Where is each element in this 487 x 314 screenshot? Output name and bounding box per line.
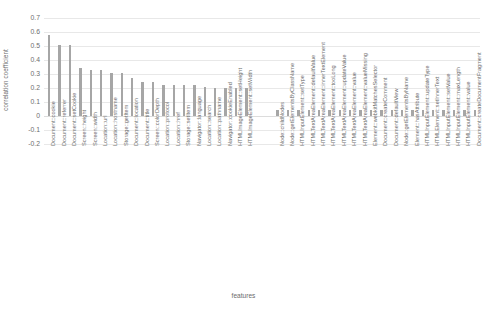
x-tick-label: Storage::getItem <box>124 105 130 146</box>
correlation-bar-chart: correlation coefficient 0.70.60.50.40.30… <box>0 0 487 314</box>
y-tick-label: 0.6 <box>16 29 40 36</box>
bar <box>100 70 102 116</box>
x-tick-label: HTMLInputElement::maxLength <box>456 67 462 146</box>
x-tick-label: Document::setCookie <box>72 93 78 146</box>
x-tick-label: Document::createComment <box>383 78 389 146</box>
y-tick-label: 0.5 <box>16 43 40 50</box>
y-tick-label: 0.7 <box>16 15 40 22</box>
x-tick-label: Document::createDocumentFragment <box>477 52 483 146</box>
x-tick-label: Screen::height <box>82 110 88 146</box>
y-tick-label: -0.1 <box>16 127 40 134</box>
x-axis-ticks: Document::cookieDocument::referrerDocume… <box>44 146 480 296</box>
x-tick-label: HTMLTextAreaElement::innerTextElement <box>321 42 327 146</box>
y-tick-label: 0.4 <box>16 57 40 64</box>
x-tick-label: Document::location <box>134 98 140 146</box>
x-tick-label: Element::webkitMatchesSelector <box>373 65 379 146</box>
x-tick-label: HTMLTextAreaElement::defaultValue <box>311 55 317 146</box>
x-axis-title: features <box>0 292 487 299</box>
x-tick-label: HTMLTextAreaElement::valueMissing <box>363 53 369 146</box>
x-tick-label: Location::href <box>176 112 182 146</box>
x-tick-label: Location::search <box>207 105 213 146</box>
x-tick-label: Node::getElementsByName <box>404 77 410 146</box>
y-axis-title: correlation coefficient <box>2 20 9 140</box>
x-tick-label: Location::hostname <box>113 97 119 146</box>
x-tick-label: HTMLTextAreaElement::tooLong <box>331 65 337 146</box>
y-tick-label: 0.2 <box>16 85 40 92</box>
x-tick-label: HTMLImageElement::setHeight <box>238 68 244 146</box>
bar <box>90 70 92 116</box>
x-tick-label: HTMLElement::setInnerText <box>435 77 441 146</box>
x-tick-label: Document::defaultView <box>394 89 400 146</box>
x-tick-label: HTMLInputElement::value <box>466 81 472 146</box>
x-tick-label: Screen::width <box>93 112 99 146</box>
y-tick-label: 0.1 <box>16 99 40 106</box>
x-tick-label: Storage::setItem <box>186 105 192 146</box>
y-tick-label: -0.2 <box>16 141 40 148</box>
x-tick-label: Location::pathname <box>217 97 223 146</box>
x-tick-label: Navigator::language <box>197 96 203 146</box>
x-tick-label: Node::getElementsByClassName <box>290 63 296 146</box>
x-tick-label: HTMLInputElement::setType <box>300 75 306 146</box>
x-tick-label: Element::hasAttribute <box>415 93 421 146</box>
y-tick-label: 0 <box>16 113 40 120</box>
x-tick-label: HTMLTextAreaElement::value <box>352 72 358 146</box>
x-tick-label: Navigator::cookieEnabled <box>228 82 234 146</box>
x-tick-label: Location::url <box>103 116 109 146</box>
x-tick-label: HTMLTextAreaElement::updateValue <box>342 54 348 146</box>
x-tick-label: Location::protocol <box>165 102 171 146</box>
bar <box>79 68 81 116</box>
x-tick-label: Document::referrer <box>62 99 68 146</box>
x-tick-label: HTMLImageElement::setWidth <box>248 70 254 146</box>
x-tick-label: Screen::colorDepth <box>155 98 161 146</box>
y-tick-label: 0.3 <box>16 71 40 78</box>
x-tick-label: Document::cookie <box>51 101 57 146</box>
x-tick-label: Node::childNodes <box>280 102 286 146</box>
x-tick-label: Document::title <box>145 109 151 146</box>
x-tick-label: HTMLInputElement::updateType <box>425 65 431 146</box>
x-tick-label: HTMLInputElement::setValue <box>446 73 452 146</box>
